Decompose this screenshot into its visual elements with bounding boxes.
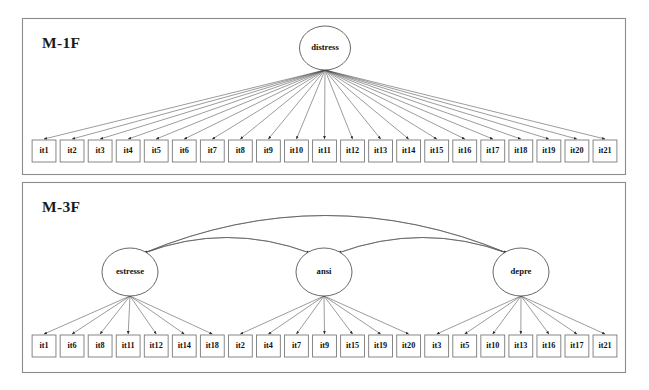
item-box-label: it6 — [68, 341, 77, 350]
factor-distress-label: distress — [311, 42, 339, 52]
item-box-m1f-it2-1[interactable]: it2 — [60, 140, 84, 162]
item-box-label: it16 — [542, 341, 555, 350]
factor-ansi[interactable]: ansi — [296, 248, 352, 296]
item-box-m1f-it6-5[interactable]: it6 — [172, 140, 196, 162]
item-box-m1f-it17-16[interactable]: it17 — [481, 140, 505, 162]
item-box-m3f-it19-12[interactable]: it19 — [369, 335, 393, 357]
item-box-label: it4 — [124, 146, 133, 155]
item-box-label: it7 — [292, 341, 301, 350]
factor-depre-label: depre — [511, 266, 532, 276]
item-box-m3f-it4-8[interactable]: it4 — [256, 335, 280, 357]
item-box-m1f-it15-14[interactable]: it15 — [425, 140, 449, 162]
item-box-m3f-it5-15[interactable]: it5 — [453, 335, 477, 357]
item-box-m1f-it1-0[interactable]: it1 — [32, 140, 56, 162]
item-box-label: it8 — [96, 341, 105, 350]
m1f-item-boxes: it1it2it3it4it5it6it7it8it9it10it11it12i… — [32, 140, 617, 162]
item-box-m3f-it16-18[interactable]: it16 — [537, 335, 561, 357]
item-box-label: it2 — [236, 341, 245, 350]
item-box-m1f-it10-9[interactable]: it10 — [285, 140, 309, 162]
item-box-m3f-it2-7[interactable]: it2 — [228, 335, 252, 357]
item-box-label: it15 — [346, 341, 359, 350]
item-box-label: it2 — [68, 146, 77, 155]
item-box-label: it11 — [318, 146, 331, 155]
factor-depre[interactable]: depre — [493, 248, 549, 296]
panel-m1f-title: M-1F — [42, 34, 80, 51]
factor-estresse[interactable]: estresse — [102, 248, 158, 296]
item-box-label: it3 — [96, 146, 105, 155]
panel-m3f-title: M-3F — [42, 198, 80, 215]
item-box-m3f-it8-2[interactable]: it8 — [88, 335, 112, 357]
item-box-label: it21 — [598, 146, 611, 155]
item-box-m3f-it10-16[interactable]: it10 — [481, 335, 505, 357]
item-box-label: it19 — [542, 146, 555, 155]
item-box-label: it15 — [430, 146, 443, 155]
item-box-m3f-it11-3[interactable]: it11 — [116, 335, 140, 357]
item-box-label: it3 — [432, 341, 441, 350]
item-box-m3f-it14-5[interactable]: it14 — [172, 335, 196, 357]
item-box-label: it10 — [486, 341, 499, 350]
item-box-m3f-it21-20[interactable]: it21 — [593, 335, 617, 357]
item-box-m1f-it19-18[interactable]: it19 — [537, 140, 561, 162]
item-box-label: it18 — [514, 146, 527, 155]
item-box-label: it20 — [402, 341, 415, 350]
item-box-m3f-it13-17[interactable]: it13 — [509, 335, 533, 357]
item-box-m3f-it17-19[interactable]: it17 — [565, 335, 589, 357]
item-box-label: it16 — [458, 146, 471, 155]
item-box-m1f-it8-7[interactable]: it8 — [228, 140, 252, 162]
item-box-label: it10 — [290, 146, 303, 155]
item-box-label: it13 — [374, 146, 387, 155]
item-box-label: it18 — [206, 341, 219, 350]
item-box-label: it11 — [122, 341, 135, 350]
item-box-label: it20 — [570, 146, 583, 155]
item-box-m1f-it14-13[interactable]: it14 — [397, 140, 421, 162]
item-box-m3f-it7-9[interactable]: it7 — [285, 335, 309, 357]
path-diagram-figure: M-1F distress it1it2it3it4it5it6it7it8it… — [0, 0, 649, 390]
item-box-label: it21 — [598, 341, 611, 350]
item-box-label: it4 — [264, 341, 273, 350]
item-box-label: it1 — [39, 341, 48, 350]
item-box-label: it1 — [39, 146, 48, 155]
item-box-m1f-it13-12[interactable]: it13 — [369, 140, 393, 162]
item-box-label: it14 — [402, 146, 415, 155]
item-box-label: it19 — [374, 341, 387, 350]
item-box-m1f-it4-3[interactable]: it4 — [116, 140, 140, 162]
item-box-m1f-it5-4[interactable]: it5 — [144, 140, 168, 162]
item-box-label: it17 — [486, 146, 499, 155]
item-box-m1f-it18-17[interactable]: it18 — [509, 140, 533, 162]
factor-distress[interactable]: distress — [300, 26, 351, 70]
item-box-m3f-it9-10[interactable]: it9 — [313, 335, 337, 357]
item-box-m1f-it21-20[interactable]: it21 — [593, 140, 617, 162]
item-box-label: it14 — [178, 341, 191, 350]
panel-m1f: M-1F distress it1it2it3it4it5it6it7it8it… — [23, 19, 626, 175]
item-box-m1f-it12-11[interactable]: it12 — [341, 140, 365, 162]
m3f-item-boxes: it1it6it8it11it12it14it18it2it4it7it9it1… — [32, 335, 617, 357]
item-box-label: it5 — [460, 341, 469, 350]
factor-ansi-label: ansi — [317, 266, 332, 276]
item-box-m3f-it15-11[interactable]: it15 — [341, 335, 365, 357]
item-box-m3f-it3-14[interactable]: it3 — [425, 335, 449, 357]
item-box-m3f-it6-1[interactable]: it6 — [60, 335, 84, 357]
item-box-label: it5 — [152, 146, 161, 155]
panel-m3f: M-3F estresse ansi depre it1it6it8it11it… — [23, 183, 626, 373]
item-box-label: it17 — [570, 341, 583, 350]
item-box-label: it12 — [150, 341, 163, 350]
item-box-label: it9 — [264, 146, 273, 155]
item-box-m1f-it7-6[interactable]: it7 — [200, 140, 224, 162]
item-box-m3f-it20-13[interactable]: it20 — [397, 335, 421, 357]
item-box-m3f-it12-4[interactable]: it12 — [144, 335, 168, 357]
item-box-label: it9 — [320, 341, 329, 350]
item-box-label: it12 — [346, 146, 359, 155]
item-box-label: it13 — [514, 341, 527, 350]
item-box-label: it7 — [208, 146, 217, 155]
item-box-m1f-it16-15[interactable]: it16 — [453, 140, 477, 162]
item-box-label: it8 — [236, 146, 245, 155]
item-box-m1f-it20-19[interactable]: it20 — [565, 140, 589, 162]
item-box-m1f-it11-10[interactable]: it11 — [313, 140, 337, 162]
item-box-m1f-it3-2[interactable]: it3 — [88, 140, 112, 162]
item-box-m1f-it9-8[interactable]: it9 — [256, 140, 280, 162]
factor-estresse-label: estresse — [116, 266, 144, 276]
item-box-label: it6 — [180, 146, 189, 155]
item-box-m3f-it18-6[interactable]: it18 — [200, 335, 224, 357]
item-box-m3f-it1-0[interactable]: it1 — [32, 335, 56, 357]
